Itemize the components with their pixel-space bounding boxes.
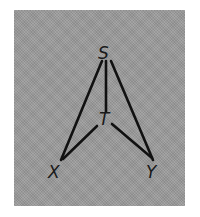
graph-diagram: S T X Y — [0, 0, 200, 217]
edge-s-x — [61, 61, 102, 160]
node-label-y: Y — [146, 162, 158, 182]
edge-s-y — [111, 61, 153, 160]
node-label-t: T — [99, 109, 111, 129]
node-label-x: X — [47, 162, 60, 182]
node-label-s: S — [98, 43, 109, 63]
